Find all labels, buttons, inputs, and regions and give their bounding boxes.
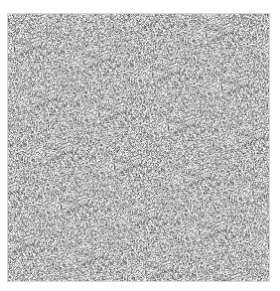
texture-canvas xyxy=(8,14,269,281)
noise-texture-image xyxy=(7,13,270,282)
